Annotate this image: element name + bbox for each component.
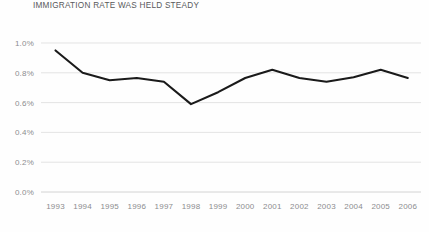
x-tick-1994: 1994	[73, 202, 92, 211]
x-tick-2006: 2006	[398, 202, 417, 211]
chart-plot-area: 1.0%0.8%0.6%0.4%0.2%0.0% 199319941995199…	[0, 0, 429, 232]
x-tick-1995: 1995	[100, 202, 119, 211]
x-tick-2001: 2001	[263, 202, 282, 211]
y-tick-0.2%: 0.2%	[15, 158, 34, 167]
x-tick-1999: 1999	[209, 202, 228, 211]
y-axis-tick-labels: 1.0%0.8%0.6%0.4%0.2%0.0%	[15, 39, 34, 197]
series-line-immigration-rate	[56, 50, 408, 104]
x-tick-2000: 2000	[236, 202, 255, 211]
gridlines	[41, 43, 421, 192]
x-axis-tick-labels: 1993199419951996199719981999200020012002…	[46, 202, 417, 211]
y-tick-0.8%: 0.8%	[15, 69, 34, 78]
x-tick-1998: 1998	[182, 202, 201, 211]
y-tick-1.0%: 1.0%	[15, 39, 34, 48]
x-tick-2003: 2003	[317, 202, 336, 211]
y-tick-0.0%: 0.0%	[15, 188, 34, 197]
x-tick-1993: 1993	[46, 202, 65, 211]
x-tick-1996: 1996	[127, 202, 146, 211]
x-tick-2002: 2002	[290, 202, 309, 211]
x-tick-2005: 2005	[371, 202, 390, 211]
y-tick-0.4%: 0.4%	[15, 128, 34, 137]
x-tick-2004: 2004	[344, 202, 363, 211]
x-tick-1997: 1997	[155, 202, 174, 211]
immigration-rate-chart: IMMIGRATION RATE WAS HELD STEADY 1.0%0.8…	[0, 0, 429, 232]
y-tick-0.6%: 0.6%	[15, 99, 34, 108]
